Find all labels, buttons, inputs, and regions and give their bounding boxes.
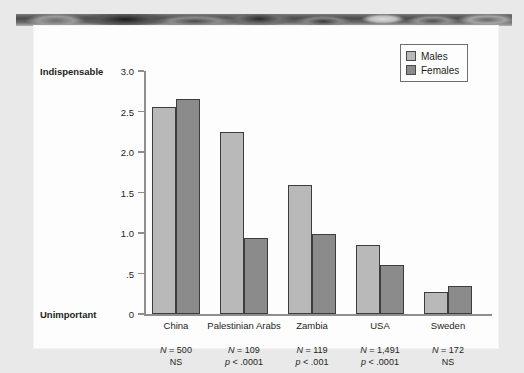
bar-females <box>244 238 268 314</box>
y-axis-tick-label: 1.5 <box>121 187 134 198</box>
category-label: China <box>164 320 189 331</box>
axis-bottom-label: Unimportant <box>40 309 96 320</box>
category-label: Palestinian Arabs <box>207 320 280 331</box>
y-axis-tick-label: .5 <box>126 268 134 279</box>
annotation: N = 500NS <box>160 344 192 368</box>
legend-label-females: Females <box>421 65 459 76</box>
bar-males <box>424 292 448 314</box>
chart-panel: Indispensable Unimportant 3.02.52.01.51.… <box>34 26 498 348</box>
annotation-p: p < .0001 <box>225 356 263 368</box>
x-axis-baseline <box>144 314 492 316</box>
bar-group <box>220 71 268 314</box>
annotation-n: N = 500 <box>160 344 192 356</box>
bar-males <box>288 185 312 314</box>
bar-females <box>380 265 404 314</box>
legend: Males Females <box>400 44 468 82</box>
legend-item-females: Females <box>406 63 459 77</box>
category-label: Zambia <box>296 320 328 331</box>
y-axis-tick <box>138 111 144 113</box>
y-axis-tick-label: 0 <box>129 309 134 320</box>
annotation-n: N = 109 <box>225 344 263 356</box>
bar-group <box>424 71 472 314</box>
category-label: USA <box>370 320 390 331</box>
annotation-n: N = 1,491 <box>360 344 399 356</box>
y-axis-tick <box>138 70 144 72</box>
legend-swatch-females <box>406 65 416 75</box>
bar-females <box>176 99 200 314</box>
annotation-p: p < .001 <box>296 356 329 368</box>
legend-item-males: Males <box>406 49 459 63</box>
annotation-p: NS <box>160 356 192 368</box>
bar-males <box>356 245 380 314</box>
annotation: N = 172NS <box>432 344 464 368</box>
y-axis-tick <box>138 313 144 315</box>
bar-group <box>288 71 336 314</box>
y-axis-tick-label: 2.5 <box>121 106 134 117</box>
y-axis-tick-label: 1.0 <box>121 228 134 239</box>
annotation: N = 119p < .001 <box>296 344 329 368</box>
y-axis-tick <box>138 273 144 275</box>
legend-label-males: Males <box>421 51 448 62</box>
legend-swatch-males <box>406 51 416 61</box>
y-axis-tick <box>138 151 144 153</box>
bar-males <box>220 132 244 314</box>
bar-group <box>152 71 200 314</box>
y-axis-tick-label: 3.0 <box>121 66 134 77</box>
bar-females <box>448 286 472 314</box>
annotation-p: p < .0001 <box>360 356 399 368</box>
bar-females <box>312 234 336 314</box>
bar-group <box>356 71 404 314</box>
scan-artifact-band <box>16 14 512 26</box>
annotation: N = 109p < .0001 <box>225 344 263 368</box>
axis-top-label: Indispensable <box>40 66 103 77</box>
annotation: N = 1,491p < .0001 <box>360 344 399 368</box>
y-axis-tick-label: 2.0 <box>121 147 134 158</box>
page-background: Indispensable Unimportant 3.02.52.01.51.… <box>0 0 524 373</box>
annotation-n: N = 172 <box>432 344 464 356</box>
annotation-p: NS <box>432 356 464 368</box>
bar-males <box>152 107 176 314</box>
y-axis-line <box>144 71 146 315</box>
y-axis-tick <box>138 232 144 234</box>
category-label: Sweden <box>431 320 465 331</box>
y-axis-tick <box>138 192 144 194</box>
annotation-n: N = 119 <box>296 344 329 356</box>
